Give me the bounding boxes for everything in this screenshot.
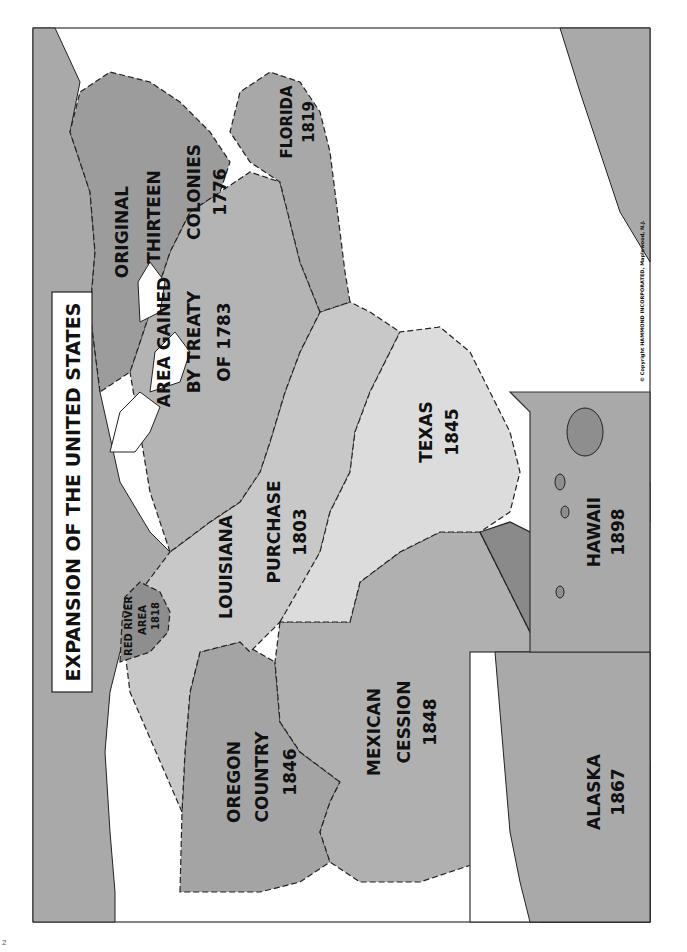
svg-text:CESSION: CESSION <box>394 681 414 764</box>
svg-text:AREA GAINED: AREA GAINED <box>154 277 174 407</box>
svg-text:OREGON: OREGON <box>224 741 244 823</box>
hawaii-oahu <box>561 506 569 518</box>
svg-text:1776: 1776 <box>210 168 230 215</box>
svg-text:RED RIVER: RED RIVER <box>123 596 134 656</box>
svg-text:1819: 1819 <box>300 101 318 143</box>
hawaii-big-island <box>567 408 603 456</box>
svg-text:1867: 1867 <box>608 768 628 815</box>
svg-text:FLORIDA: FLORIDA <box>278 85 296 159</box>
map-page: EXPANSION OF THE UNITED STATES ORIGINAL … <box>0 0 687 952</box>
svg-text:1818: 1818 <box>150 602 161 630</box>
page-number: 2 <box>2 938 8 948</box>
svg-text:ALASKA: ALASKA <box>584 753 604 830</box>
svg-text:BY TREATY: BY TREATY <box>184 290 204 393</box>
svg-text:PURCHASE: PURCHASE <box>264 480 284 583</box>
svg-text:COLONIES: COLONIES <box>184 144 204 240</box>
svg-text:COUNTRY: COUNTRY <box>252 731 272 823</box>
svg-text:1803: 1803 <box>290 508 310 555</box>
map-title: EXPANSION OF THE UNITED STATES <box>62 303 84 682</box>
hawaii-kauai <box>556 586 564 598</box>
svg-text:ORIGINAL: ORIGINAL <box>112 186 132 279</box>
svg-text:1846: 1846 <box>280 748 300 795</box>
copyright-text: © Copyright HAMMOND INCORPORATED, Maplew… <box>639 220 646 382</box>
svg-text:HAWAII: HAWAII <box>584 497 604 567</box>
expansion-map: EXPANSION OF THE UNITED STATES ORIGINAL … <box>0 0 687 952</box>
svg-text:TEXAS: TEXAS <box>416 401 436 463</box>
svg-text:LOUISIANA: LOUISIANA <box>216 514 236 619</box>
hawaii-maui <box>555 474 565 490</box>
svg-text:AREA: AREA <box>137 605 148 635</box>
svg-text:1845: 1845 <box>442 408 462 455</box>
svg-text:1898: 1898 <box>608 508 628 555</box>
svg-text:OF 1783: OF 1783 <box>214 302 234 381</box>
svg-text:MEXICAN: MEXICAN <box>364 688 384 776</box>
svg-text:THIRTEEN: THIRTEEN <box>144 170 164 264</box>
svg-text:1848: 1848 <box>420 698 440 745</box>
